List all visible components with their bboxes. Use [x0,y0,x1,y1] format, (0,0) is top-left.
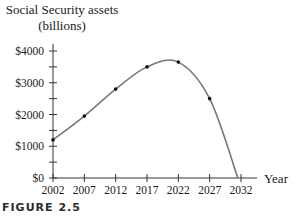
figure-caption: FIGURE 2.5 [2,201,81,214]
line-chart: $0$1000$2000$3000$4000200220072012201720… [0,0,302,220]
x-tick-label: 2002 [42,184,65,196]
y-tick-label: $3000 [15,77,44,89]
data-point [177,60,181,64]
x-tick-label: 2022 [167,184,190,196]
x-tick-label: 2012 [104,184,127,196]
data-point [145,65,149,69]
x-tick-label: 2017 [136,184,159,196]
y-tick-label: $2000 [15,109,44,121]
y-tick-label: $0 [33,172,45,184]
x-tick-label: 2032 [230,184,253,196]
x-tick-label: 2007 [73,184,96,196]
assets-curve [53,60,238,178]
x-tick-label: 2027 [198,184,221,196]
data-point [83,114,87,118]
x-axis-title: Year [264,171,289,186]
data-point [51,138,55,142]
data-point [114,87,118,91]
y-tick-label: $1000 [15,140,44,152]
y-tick-label: $4000 [15,45,44,57]
data-point [208,97,212,101]
